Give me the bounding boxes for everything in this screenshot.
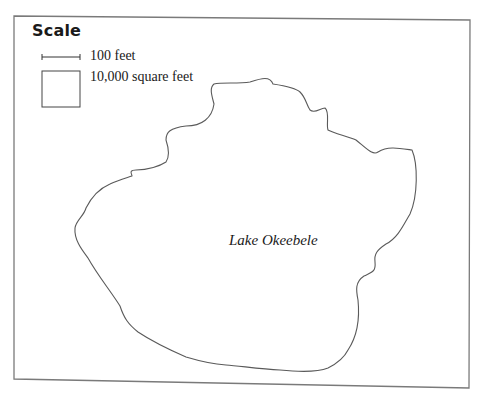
lake-name-label: Lake Okeebele	[229, 232, 318, 249]
map-figure	[0, 0, 491, 395]
legend-title: Scale	[32, 21, 81, 40]
legend-label-100-feet: 100 feet	[90, 48, 135, 64]
map-frame	[14, 16, 470, 388]
legend-label-10000-square-feet: 10,000 square feet	[90, 69, 193, 85]
